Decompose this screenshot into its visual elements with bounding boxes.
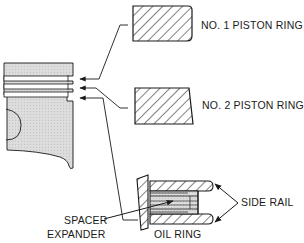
side-rail-bottom <box>150 214 213 224</box>
no-2-piston-ring-label: NO. 2 PISTON RING <box>202 100 304 111</box>
no-1-piston-ring <box>133 6 192 41</box>
side-rail-top <box>150 181 213 191</box>
spacer-expander <box>150 191 198 214</box>
no-2-piston-ring <box>135 88 193 124</box>
groove-3 <box>4 92 68 97</box>
oil-ring-label: OIL RING <box>154 229 201 240</box>
oil-ring <box>137 175 213 230</box>
groove-2 <box>4 84 68 89</box>
side-rail-pointers <box>215 184 238 222</box>
spacer-label: SPACER <box>64 215 108 226</box>
piston <box>4 63 73 169</box>
leader-lines <box>80 25 138 220</box>
expander-label: EXPANDER <box>47 229 106 240</box>
piston-ring-diagram: NO. 1 PISTON RING NO. 2 PISTON RING SIDE… <box>0 0 304 243</box>
side-rail-label: SIDE RAIL <box>241 197 294 208</box>
groove-1 <box>4 76 68 81</box>
no-1-piston-ring-label: NO. 1 PISTON RING <box>201 20 303 31</box>
